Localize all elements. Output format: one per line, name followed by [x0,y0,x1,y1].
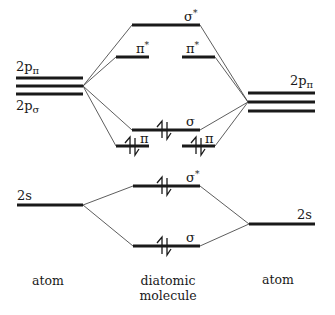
pi-right-label: π [205,132,214,145]
sigma-star-2p-label: σ* [184,10,197,23]
footer-molecule-line2: molecule [136,288,200,303]
left-2p-sigma-label: 2pσ [16,99,39,113]
footer-molecule: diatomic molecule [136,273,200,303]
pi-star-left-label: π* [136,42,149,55]
pi-left-label: π [140,132,149,145]
sigma-2s-label: σ [186,231,195,244]
sigma-2p-label: σ [186,115,195,128]
right-2p-pi-label: 2pπ [290,74,313,88]
energy-levels [16,25,315,246]
left-2p-pi-label: 2pπ [16,60,39,74]
footer-right-atom: atom [256,272,300,287]
correlation-lines [83,25,249,246]
footer-molecule-line1: diatomic [136,273,200,288]
left-2s-label: 2s [17,189,32,203]
sigma-star-2s-label: σ* [186,171,199,184]
mo-diagram-graphic [0,0,335,315]
right-2s-label: 2s [297,208,312,222]
pi-star-right-label: π* [186,42,199,55]
footer-left-atom: atom [26,273,70,288]
